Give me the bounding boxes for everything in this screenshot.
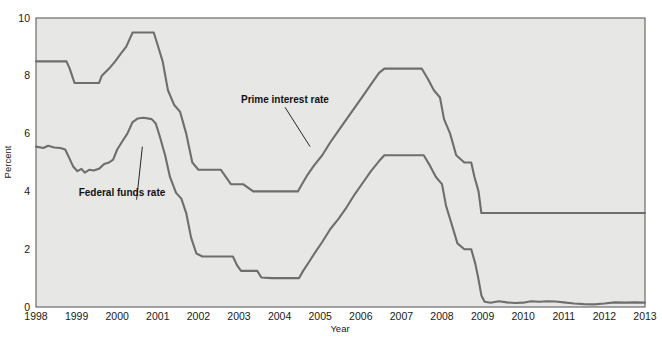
- annotation-label: Prime interest rate: [241, 94, 329, 105]
- x-tick-label: 2011: [553, 310, 576, 322]
- x-tick-label: 2010: [512, 310, 536, 322]
- x-tick-label: 2003: [227, 310, 251, 322]
- x-tick-label: 2002: [187, 310, 211, 322]
- x-tick-label: 2006: [349, 310, 373, 322]
- y-tick-label: 8: [24, 69, 30, 81]
- y-tick-label: 6: [24, 127, 30, 139]
- y-tick-label: 2: [24, 243, 30, 255]
- x-tick-label: 1998: [24, 310, 48, 322]
- x-axis-ticks: 1998199920002001200220032004200520062007…: [24, 310, 657, 322]
- x-axis-title: Year: [330, 323, 349, 334]
- interest-rate-chart: 0246810 19981999200020012002200320042005…: [0, 0, 662, 339]
- x-tick-label: 2013: [633, 310, 657, 322]
- x-tick-label: 2001: [146, 310, 170, 322]
- plot-background: [36, 18, 645, 307]
- x-tick-label: 2005: [309, 310, 333, 322]
- y-tick-label: 4: [24, 185, 30, 197]
- x-tick-label: 2008: [430, 310, 454, 322]
- annotation-label: Federal funds rate: [79, 187, 166, 198]
- x-tick-label: 2004: [268, 310, 292, 322]
- chart-svg: 0246810 19981999200020012002200320042005…: [0, 0, 662, 339]
- x-tick-label: 2000: [106, 310, 130, 322]
- y-axis-ticks: 0246810: [18, 12, 30, 313]
- x-tick-label: 2009: [471, 310, 495, 322]
- x-tick-label: 2007: [390, 310, 414, 322]
- x-tick-label: 1999: [65, 310, 89, 322]
- y-tick-label: 10: [18, 12, 30, 24]
- x-tick-label: 2012: [593, 310, 617, 322]
- y-axis-title: Percent: [2, 145, 13, 178]
